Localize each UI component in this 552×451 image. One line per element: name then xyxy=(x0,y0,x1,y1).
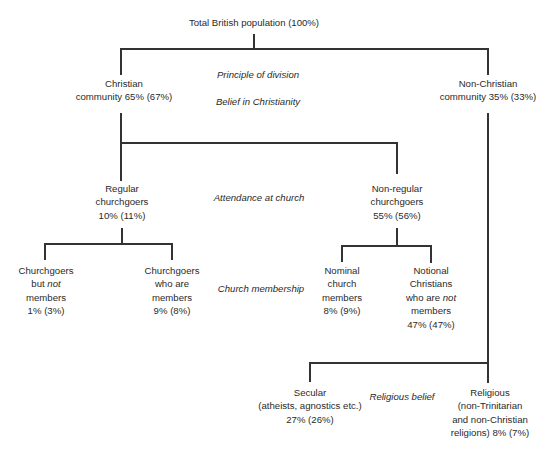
node-label: Religious xyxy=(451,386,529,399)
node-value: community 65% (67%) xyxy=(76,90,173,103)
principle-religious-belief: Religious belief xyxy=(369,391,434,402)
node-notional-christians: Notional Christians who are not members … xyxy=(406,264,456,331)
node-label: members xyxy=(19,291,74,304)
node-label: members xyxy=(145,291,200,304)
node-value: 55% (56%) xyxy=(371,209,424,222)
node-label: Regular xyxy=(96,182,149,195)
principle-attendance-at-church: Attendance at church xyxy=(214,192,305,203)
node-label: Churchgoers xyxy=(145,264,200,277)
node-churchgoers-members: Churchgoers who are members 9% (8%) xyxy=(145,264,200,318)
principle-belief-in-christianity: Belief in Christianity xyxy=(216,96,300,107)
node-value: religions) 8% (7%) xyxy=(451,426,529,439)
node-label: members xyxy=(406,304,456,317)
node-christian-community: Christian community 65% (67%) xyxy=(76,77,173,104)
node-label-text: who are xyxy=(406,292,443,303)
node-label: Secular xyxy=(258,386,361,399)
node-value: 47% (47%) xyxy=(406,318,456,331)
node-label: churchgoers xyxy=(96,195,149,208)
principle-church-membership: Church membership xyxy=(218,283,304,294)
node-non-regular-churchgoers: Non-regular churchgoers 55% (56%) xyxy=(371,182,424,222)
node-value: 9% (8%) xyxy=(145,304,200,317)
node-label: (non-Trinitarian xyxy=(451,399,529,412)
node-label: Christians xyxy=(406,277,456,290)
node-secular: Secular (atheists, agnostics etc.) 27% (… xyxy=(258,386,361,426)
node-label: members xyxy=(322,291,362,304)
node-label: Churchgoers xyxy=(19,264,74,277)
node-label: Non-Christian xyxy=(440,77,537,90)
node-label-text: but xyxy=(31,278,47,289)
node-label: who are not xyxy=(406,291,456,304)
node-label-emphasis: not xyxy=(47,278,60,289)
node-label: (atheists, agnostics etc.) xyxy=(258,399,361,412)
node-label: Total British population (100%) xyxy=(189,16,319,29)
node-non-christian-community: Non-Christian community 35% (33%) xyxy=(440,77,537,104)
node-value: 27% (26%) xyxy=(258,413,361,426)
node-religious: Religious (non-Trinitarian and non-Chris… xyxy=(451,386,529,440)
node-label: Notional xyxy=(406,264,456,277)
node-label: but not xyxy=(19,277,74,290)
node-regular-churchgoers: Regular churchgoers 10% (11%) xyxy=(96,182,149,222)
population-division-tree: Total British population (100%) Principl… xyxy=(0,0,552,451)
node-label: church xyxy=(322,277,362,290)
principle-of-division-heading: Principle of division xyxy=(217,69,299,80)
node-label: who are xyxy=(145,277,200,290)
node-label: and non-Christian xyxy=(451,413,529,426)
node-label: Christian xyxy=(76,77,173,90)
tree-connectors xyxy=(0,0,552,451)
node-value: 10% (11%) xyxy=(96,209,149,222)
node-label: Nominal xyxy=(322,264,362,277)
node-value: 1% (3%) xyxy=(19,304,74,317)
node-churchgoers-not-members: Churchgoers but not members 1% (3%) xyxy=(19,264,74,318)
node-value: community 35% (33%) xyxy=(440,90,537,103)
node-label: Non-regular xyxy=(371,182,424,195)
node-total-population: Total British population (100%) xyxy=(189,16,319,29)
node-label: churchgoers xyxy=(371,195,424,208)
node-nominal-church-members: Nominal church members 8% (9%) xyxy=(322,264,362,318)
node-label-emphasis: not xyxy=(443,292,456,303)
node-value: 8% (9%) xyxy=(322,304,362,317)
